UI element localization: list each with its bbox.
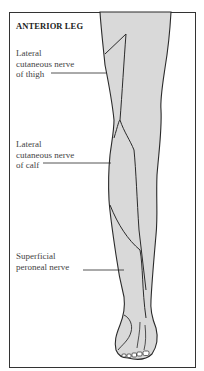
- leg-illustration: [0, 0, 204, 371]
- leg-outline: [100, 12, 171, 359]
